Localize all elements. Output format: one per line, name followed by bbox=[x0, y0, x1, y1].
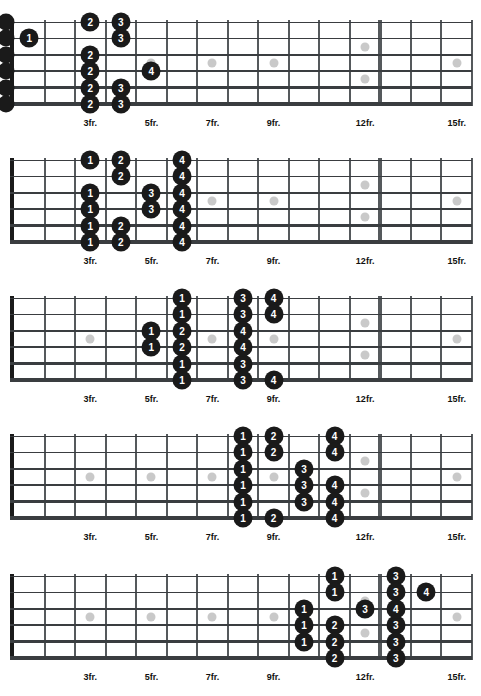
fret-wire-6 bbox=[196, 20, 198, 106]
inlay-marker-fret-12-1 bbox=[361, 318, 370, 327]
fret-label-7: 7fr. bbox=[206, 532, 220, 542]
inlay-marker-fret-12-1 bbox=[361, 180, 370, 189]
fret-label-15: 15fr. bbox=[447, 672, 466, 682]
note-dot-s4-f6: 2 bbox=[172, 338, 191, 357]
fret-label-15: 15fr. bbox=[447, 118, 466, 128]
fret-wire-1 bbox=[44, 574, 46, 660]
inlay-marker-fret-9 bbox=[269, 335, 278, 344]
fret-wire-13 bbox=[410, 20, 412, 106]
note-dot-s6-f3: 1 bbox=[81, 233, 100, 252]
fret-wire-12 bbox=[378, 20, 382, 106]
inlay-marker-fret-9 bbox=[269, 197, 278, 206]
fret-wire-13 bbox=[410, 434, 412, 520]
fret-wire-1 bbox=[44, 20, 46, 106]
fret-wire-9 bbox=[288, 296, 290, 382]
inlay-marker-fret-7 bbox=[208, 335, 217, 344]
note-dot-s6-f9: 4 bbox=[264, 371, 283, 390]
open-string-dot-6 bbox=[0, 96, 15, 113]
fret-wire-2 bbox=[74, 434, 76, 520]
fret-wire-3 bbox=[105, 574, 107, 660]
fret-wire-6 bbox=[196, 296, 198, 382]
inlay-marker-fret-9 bbox=[269, 59, 278, 68]
nut bbox=[10, 158, 14, 244]
fretboard-diagram-2: 111112222334444443fr.5fr.7fr.9fr.12fr.15… bbox=[0, 138, 481, 276]
note-dot-s6-f4: 3 bbox=[111, 95, 130, 114]
note-dot-s2-f9: 4 bbox=[264, 305, 283, 324]
note-dot-s4-f5: 4 bbox=[142, 62, 161, 81]
fret-wire-4 bbox=[135, 296, 137, 382]
string-5 bbox=[10, 224, 472, 227]
string-4 bbox=[10, 208, 472, 210]
note-dot-s2-f9: 2 bbox=[264, 443, 283, 462]
inlay-marker-fret-12-2 bbox=[361, 75, 370, 84]
fret-label-7: 7fr. bbox=[206, 672, 220, 682]
string-1 bbox=[10, 22, 472, 23]
inlay-marker-fret-3 bbox=[86, 335, 95, 344]
fret-wire-15 bbox=[471, 158, 473, 244]
fret-wire-7 bbox=[227, 434, 229, 520]
note-dot-s2-f4: 3 bbox=[111, 29, 130, 48]
string-2 bbox=[10, 38, 472, 39]
fretboard-diagram-4: 111111222333444443fr.5fr.7fr.9fr.12fr.15… bbox=[0, 414, 481, 552]
fret-label-9: 9fr. bbox=[267, 256, 281, 266]
fret-wire-7 bbox=[227, 296, 229, 382]
fret-wire-5 bbox=[166, 20, 168, 106]
fret-wire-4 bbox=[135, 434, 137, 520]
fret-wire-5 bbox=[166, 434, 168, 520]
note-dot-s6-f9: 2 bbox=[264, 509, 283, 528]
inlay-marker-fret-7 bbox=[208, 197, 217, 206]
fret-wire-14 bbox=[440, 574, 442, 660]
fretboard: 122222333343fr.5fr.7fr.9fr.12fr.15fr. bbox=[0, 0, 481, 138]
fret-wire-6 bbox=[196, 434, 198, 520]
fret-wire-1 bbox=[44, 434, 46, 520]
fret-wire-14 bbox=[440, 434, 442, 520]
inlay-marker-fret-15 bbox=[452, 335, 461, 344]
fret-wire-7 bbox=[227, 158, 229, 244]
note-dot-s2-f11: 4 bbox=[325, 443, 344, 462]
fret-wire-3 bbox=[105, 434, 107, 520]
note-dot-s6-f11: 2 bbox=[325, 649, 344, 668]
inlay-marker-fret-12-2 bbox=[361, 489, 370, 498]
fret-wire-1 bbox=[44, 296, 46, 382]
fret-wire-10 bbox=[318, 20, 320, 106]
string-2 bbox=[10, 176, 472, 177]
fret-wire-14 bbox=[440, 158, 442, 244]
fret-label-12: 12fr. bbox=[356, 394, 375, 404]
fret-wire-4 bbox=[135, 20, 137, 106]
fret-label-3: 3fr. bbox=[84, 394, 98, 404]
string-6 bbox=[10, 102, 472, 105]
fret-wire-8 bbox=[257, 574, 259, 660]
inlay-marker-fret-12-2 bbox=[361, 629, 370, 638]
fret-label-7: 7fr. bbox=[206, 394, 220, 404]
fret-wire-12 bbox=[378, 158, 382, 244]
fret-label-7: 7fr. bbox=[206, 118, 220, 128]
fret-wire-11 bbox=[349, 574, 351, 660]
note-dot-s6-f13: 3 bbox=[386, 649, 405, 668]
fret-wire-8 bbox=[257, 434, 259, 520]
fret-label-5: 5fr. bbox=[145, 118, 159, 128]
string-6 bbox=[10, 240, 472, 243]
fret-wire-7 bbox=[227, 20, 229, 106]
fret-wire-11 bbox=[349, 158, 351, 244]
note-dot-s3-f13: 4 bbox=[386, 599, 405, 618]
fretboard: 111111222333444443fr.5fr.7fr.9fr.12fr.15… bbox=[0, 414, 481, 552]
fret-wire-9 bbox=[288, 20, 290, 106]
inlay-marker-fret-9 bbox=[269, 473, 278, 482]
fret-wire-13 bbox=[410, 296, 412, 382]
fret-wire-3 bbox=[105, 158, 107, 244]
fret-wire-2 bbox=[74, 158, 76, 244]
fret-label-15: 15fr. bbox=[447, 532, 466, 542]
fret-wire-9 bbox=[288, 574, 290, 660]
note-dot-s2-f1: 1 bbox=[20, 29, 39, 48]
fret-wire-8 bbox=[257, 20, 259, 106]
inlay-marker-fret-7 bbox=[208, 473, 217, 482]
fret-wire-6 bbox=[196, 158, 198, 244]
fret-wire-2 bbox=[74, 296, 76, 382]
fret-wire-11 bbox=[349, 434, 351, 520]
fret-wire-8 bbox=[257, 158, 259, 244]
string-5 bbox=[10, 86, 472, 89]
note-dot-s6-f3: 2 bbox=[81, 95, 100, 114]
note-dot-s4-f5: 1 bbox=[142, 338, 161, 357]
fret-label-5: 5fr. bbox=[145, 532, 159, 542]
fret-wire-13 bbox=[410, 158, 412, 244]
